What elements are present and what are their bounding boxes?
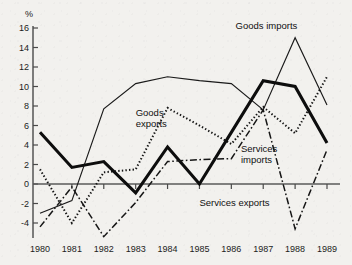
x-tick-label: 1987 (253, 244, 273, 254)
y-tick-label: 6 (24, 121, 29, 131)
chart-canvas: -4-20246810121416 % 19801981198219831984… (0, 0, 352, 265)
x-tick-label: 1983 (126, 244, 146, 254)
series-line-services-imports (40, 81, 327, 193)
series-label-text: Goods imports (236, 20, 298, 31)
series-line-services-exports (40, 110, 327, 237)
y-tick-label: 10 (19, 82, 29, 92)
series-label-text: Goods (136, 107, 164, 118)
series-label-goods-exports: Goodsexports (136, 107, 167, 129)
series-label-goods-imports: Goods imports (236, 20, 298, 31)
y-tick-label: 2 (24, 160, 29, 170)
series-label-text: imports (241, 154, 272, 165)
y-tick-group: -4-20246810121416 (19, 23, 38, 228)
series-label-services-exports: Services exports (199, 197, 269, 208)
x-tick-label-group: 1980198119821983198419851986198719881989 (30, 244, 337, 254)
series-annotation-group: Goods importsGoodsexportsServicesimports… (136, 20, 298, 208)
y-tick-label: 14 (19, 43, 29, 53)
y-tick-label: -2 (21, 199, 29, 209)
x-tick-label: 1980 (30, 244, 50, 254)
x-tick-label: 1981 (62, 244, 82, 254)
y-axis-group: -4-20246810121416 % (19, 9, 38, 238)
series-label-text: exports (136, 118, 167, 129)
x-tick-label: 1982 (94, 244, 114, 254)
series-label-text: Services (241, 143, 278, 154)
y-tick-label: 0 (24, 179, 29, 189)
y-tick-label: 16 (19, 23, 29, 33)
y-tick-label: 4 (24, 140, 29, 150)
line-chart-figure: -4-20246810121416 % 19801981198219831984… (0, 0, 352, 265)
series-line-goods-exports (40, 77, 327, 223)
x-tick-label: 1986 (221, 244, 241, 254)
x-tick-label: 1985 (189, 244, 209, 254)
x-tick-label: 1988 (285, 244, 305, 254)
x-tick-label: 1989 (317, 244, 337, 254)
y-tick-label: 8 (24, 101, 29, 111)
y-tick-label: -4 (21, 218, 29, 228)
y-axis-unit-label: % (25, 9, 33, 19)
x-tick-label: 1984 (158, 244, 178, 254)
y-tick-label: 12 (19, 62, 29, 72)
series-path-group (40, 38, 327, 237)
series-label-text: Services exports (199, 197, 269, 208)
series-label-services-imports: Servicesimports (241, 143, 278, 165)
